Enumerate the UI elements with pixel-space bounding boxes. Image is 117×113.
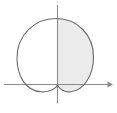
polar-curve-figure: [0, 0, 117, 113]
figure-container: [0, 0, 117, 113]
x-axis-arrowhead-icon: [107, 82, 113, 88]
